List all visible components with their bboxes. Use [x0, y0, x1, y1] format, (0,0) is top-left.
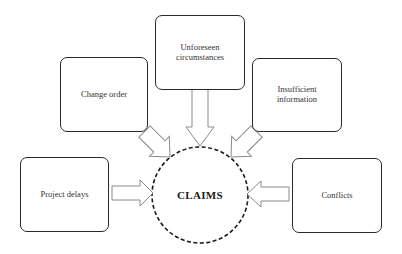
node-unforeseen-circumstances: Unforeseen circumstances	[155, 15, 245, 90]
node-label-line-2: circumstances	[176, 53, 224, 63]
node-insufficient-information: Insufficient information	[252, 58, 342, 132]
arrow-conflicts-to-claims	[247, 181, 289, 207]
node-project-delays: Project delays	[20, 157, 109, 232]
node-label: Project delays	[41, 190, 89, 200]
node-label: Insufficient information	[257, 85, 337, 105]
node-label: Conflicts	[321, 191, 352, 201]
arrow-project-delays-to-claims	[112, 180, 153, 206]
claims-diagram: Change order Unforeseen circumstances In…	[0, 0, 402, 254]
node-change-order: Change order	[60, 57, 148, 132]
node-conflicts: Conflicts	[292, 158, 382, 233]
claims-label: CLAIMS	[153, 146, 247, 244]
arrow-unforeseen-to-claims	[186, 89, 214, 146]
node-label: Change order	[81, 90, 127, 100]
